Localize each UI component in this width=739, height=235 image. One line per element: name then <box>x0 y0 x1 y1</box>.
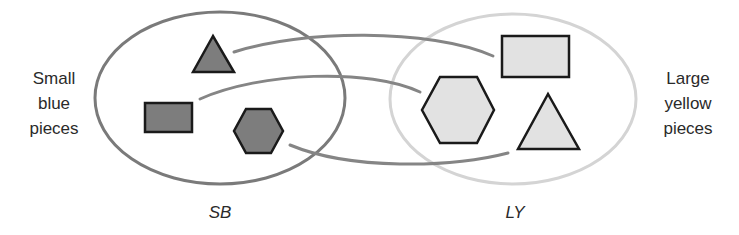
set-sb-description: Small blue pieces <box>18 66 90 141</box>
small-blue-triangle <box>193 36 234 72</box>
set-ly-description-line: yellow <box>648 91 728 116</box>
large-yellow-rectangle <box>502 36 569 77</box>
set-ly-members <box>422 36 579 149</box>
set-sb-description-line: Small <box>18 66 90 91</box>
set-sb-name: SB <box>190 203 250 223</box>
set-ly-name: LY <box>485 203 545 223</box>
sets-mapping-diagram <box>0 0 739 235</box>
set-sb-description-line: pieces <box>18 116 90 141</box>
small-blue-hexagon <box>234 109 283 153</box>
set-ly-description: Large yellow pieces <box>648 66 728 141</box>
large-yellow-triangle <box>518 94 579 149</box>
set-ly-description-line: pieces <box>648 116 728 141</box>
large-yellow-hexagon <box>422 77 494 143</box>
set-ly-description-line: Large <box>648 66 728 91</box>
mapping-triangle-to-rectangle <box>234 35 493 56</box>
small-blue-rectangle <box>145 103 192 132</box>
mapping-rectangle-to-hexagon <box>200 76 420 99</box>
set-sb-description-line: blue <box>18 91 90 116</box>
